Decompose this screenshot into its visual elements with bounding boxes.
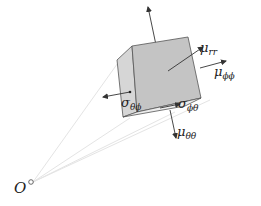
origin-point xyxy=(29,180,34,185)
top-axis-arrow xyxy=(148,7,156,45)
origin-label: O xyxy=(14,179,26,197)
mu-phiphi-label: μϕϕ xyxy=(214,64,235,81)
mu-thetatheta-arrow xyxy=(170,110,176,138)
stress-element-diagram: μrr μϕϕ σθϕ σϕθ μθθ O xyxy=(0,0,261,206)
mu-thetatheta-label: μθθ xyxy=(177,124,197,141)
sigma-thetaphi-dot xyxy=(129,91,132,94)
mu-rr-label: μrr xyxy=(200,40,218,57)
